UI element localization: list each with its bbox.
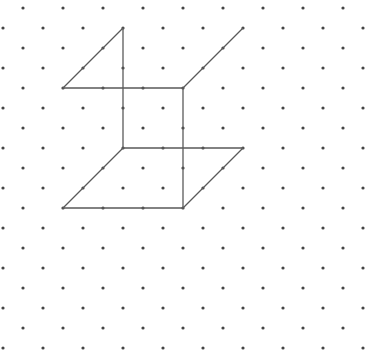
grid-dot — [261, 326, 264, 329]
grid-dot — [321, 226, 324, 229]
grid-dot — [201, 346, 204, 349]
grid-dot — [201, 106, 204, 109]
grid-dot — [301, 46, 304, 49]
grid-dot — [341, 46, 344, 49]
grid-dot — [1, 186, 4, 189]
grid-dot — [1, 66, 4, 69]
grid-dot — [301, 126, 304, 129]
grid-dot — [301, 286, 304, 289]
grid-dot — [181, 286, 184, 289]
grid-dot — [361, 106, 364, 109]
grid-dot — [361, 66, 364, 69]
grid-dot — [161, 306, 164, 309]
grid-dot — [261, 286, 264, 289]
grid-dot — [261, 166, 264, 169]
grid-dot — [161, 266, 164, 269]
grid-dot — [81, 26, 84, 29]
grid-dot — [201, 266, 204, 269]
grid-dot — [281, 146, 284, 149]
grid-dot — [141, 166, 144, 169]
grid-dot — [141, 126, 144, 129]
grid-dot — [101, 246, 104, 249]
grid-dot — [41, 186, 44, 189]
grid-dot — [321, 146, 324, 149]
grid-dot — [121, 226, 124, 229]
grid-dot — [21, 126, 24, 129]
dot-grid-diagram — [0, 0, 365, 350]
grid-dot — [81, 266, 84, 269]
grid-dot — [41, 306, 44, 309]
grid-dot — [261, 46, 264, 49]
grid-dot — [121, 346, 124, 349]
diagram-canvas — [0, 0, 365, 350]
grid-dot — [61, 166, 64, 169]
grid-dot — [41, 26, 44, 29]
grid-dot — [301, 6, 304, 9]
figure-line-segment — [183, 28, 243, 88]
grid-dot — [21, 286, 24, 289]
grid-dot — [161, 26, 164, 29]
grid-dot — [161, 226, 164, 229]
grid-dot — [81, 346, 84, 349]
grid-dot — [141, 6, 144, 9]
grid-dot — [21, 246, 24, 249]
grid-dot — [221, 126, 224, 129]
grid-dot — [121, 266, 124, 269]
grid-dot — [221, 86, 224, 89]
grid-dot — [321, 66, 324, 69]
drawn-figure-lines — [63, 28, 243, 208]
grid-dot — [141, 286, 144, 289]
grid-dot — [21, 86, 24, 89]
grid-dot — [241, 226, 244, 229]
grid-dot — [61, 286, 64, 289]
grid-dot — [1, 106, 4, 109]
grid-dot — [221, 246, 224, 249]
grid-dot — [341, 246, 344, 249]
grid-dot — [61, 6, 64, 9]
grid-dot — [181, 246, 184, 249]
grid-dot — [341, 126, 344, 129]
grid-dot — [181, 326, 184, 329]
grid-dot — [221, 326, 224, 329]
grid-dot — [321, 106, 324, 109]
grid-dot — [61, 326, 64, 329]
grid-dot — [21, 6, 24, 9]
grid-dot — [301, 326, 304, 329]
grid-dot — [361, 186, 364, 189]
grid-dot — [81, 106, 84, 109]
grid-dot — [241, 66, 244, 69]
grid-dot — [261, 206, 264, 209]
grid-dot — [361, 306, 364, 309]
grid-dot — [341, 206, 344, 209]
grid-dot — [81, 306, 84, 309]
grid-dot — [41, 346, 44, 349]
grid-dot — [101, 126, 104, 129]
grid-dot — [321, 186, 324, 189]
grid-dot — [161, 106, 164, 109]
grid-dot — [321, 346, 324, 349]
grid-dot — [281, 26, 284, 29]
grid-dot — [341, 326, 344, 329]
grid-dot — [41, 146, 44, 149]
grid-dot — [21, 166, 24, 169]
grid-dot — [321, 306, 324, 309]
grid-dot — [361, 26, 364, 29]
grid-dot — [241, 186, 244, 189]
grid-dot — [41, 226, 44, 229]
figure-line-segment — [183, 148, 243, 208]
grid-dot — [1, 346, 4, 349]
grid-dot — [321, 26, 324, 29]
grid-dot — [281, 186, 284, 189]
grid-dot — [21, 326, 24, 329]
grid-dot — [21, 46, 24, 49]
grid-dot — [81, 146, 84, 149]
grid-dot — [141, 246, 144, 249]
figure-line-segment — [63, 148, 123, 208]
grid-dot — [121, 186, 124, 189]
grid-dot — [101, 6, 104, 9]
grid-dot — [1, 226, 4, 229]
grid-dot — [1, 306, 4, 309]
grid-dot — [221, 206, 224, 209]
grid-dot — [281, 66, 284, 69]
grid-dot — [301, 86, 304, 89]
